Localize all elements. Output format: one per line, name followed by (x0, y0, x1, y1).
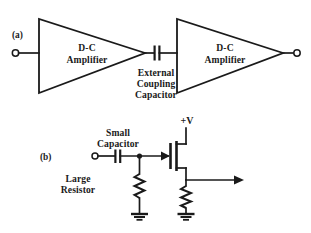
resistor-left-zigzag (135, 174, 145, 198)
coupling-capacitor-label-line3: Capacitor (135, 89, 178, 100)
resistor-right-zigzag (181, 186, 191, 208)
panel-a-label: (a) (12, 30, 23, 41)
input-terminal-b[interactable] (92, 153, 98, 159)
large-resistor-label-line2: Resistor (61, 184, 96, 195)
panel-a: (a) D-C Amplifier External Coupling (12, 19, 300, 100)
transistor[interactable] (171, 141, 187, 171)
supply-voltage-label: +V (181, 115, 195, 126)
amplifier-1-label-line1: D-C (78, 42, 95, 53)
coupling-capacitor-label-line1: External (138, 67, 175, 78)
figure-root: (a) D-C Amplifier External Coupling (0, 0, 311, 233)
source-resistor[interactable] (181, 180, 191, 214)
dc-amplifier-2[interactable]: D-C Amplifier (177, 19, 283, 93)
dc-amplifier-1[interactable]: D-C Amplifier (39, 19, 145, 93)
circuit-diagram: (a) D-C Amplifier External Coupling (0, 0, 311, 233)
amplifier-2-label-line2: Amplifier (205, 54, 247, 65)
ground-symbol-right (178, 214, 195, 220)
large-resistor[interactable] (135, 156, 145, 214)
amplifier-2-label-line1: D-C (216, 42, 233, 53)
small-capacitor-label-line1: Small (106, 127, 130, 138)
output-arrowhead (234, 176, 244, 185)
amplifier-1-label-line2: Amplifier (67, 54, 109, 65)
panel-b-label: (b) (40, 152, 51, 163)
coupling-capacitor-label-line2: Coupling (137, 78, 176, 89)
panel-b: (b) Small Capacitor Large Resistor (40, 115, 244, 220)
large-resistor-label-line1: Large (65, 173, 91, 184)
small-capacitor-label-line2: Capacitor (97, 138, 140, 149)
output-terminal-a[interactable] (294, 50, 300, 56)
input-terminal-a[interactable] (12, 50, 18, 56)
ground-symbol-left (131, 214, 148, 220)
gate-arrowhead (161, 152, 170, 161)
